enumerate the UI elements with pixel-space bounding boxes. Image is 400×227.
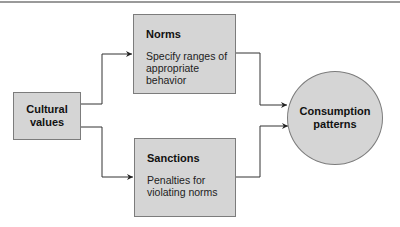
node-description: Specify ranges of appropriate behavior	[146, 50, 236, 86]
node-description: Penalties for violating norms	[147, 174, 235, 198]
node-cultural-values: Cultural values	[13, 92, 81, 140]
node-title: Sanctions	[147, 152, 235, 165]
node-consumption-patterns: Consumption patterns	[287, 71, 383, 165]
node-sanctions: Sanctions Penalties for violating norms	[134, 138, 236, 217]
edge-cultural-to-norms	[81, 54, 132, 104]
node-title: Norms	[146, 28, 235, 41]
edge-cultural-to-sanctions	[81, 127, 133, 177]
edge-sanctions-to-consumption	[236, 126, 288, 177]
node-title: Consumption patterns	[295, 105, 375, 131]
node-title: Cultural values	[14, 103, 80, 129]
node-norms: Norms Specify ranges of appropriate beha…	[133, 14, 236, 94]
edge-norms-to-consumption	[236, 53, 287, 105]
